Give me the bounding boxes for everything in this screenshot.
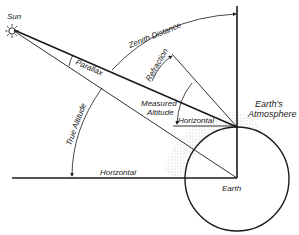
refraction-parallax-diagram: Sun Zenith Distance Parallax Refraction … bbox=[0, 0, 299, 235]
sun-to-observer-line bbox=[14, 30, 237, 127]
label-sun: Sun bbox=[7, 12, 22, 21]
parallax-arc bbox=[69, 55, 73, 66]
diagram-canvas: Sun Zenith Distance Parallax Refraction … bbox=[0, 0, 299, 235]
label-earths-atmosphere-1: Earth's bbox=[255, 99, 283, 109]
label-earth: Earth bbox=[222, 184, 242, 193]
label-measured-altitude-1: Measured bbox=[141, 99, 177, 108]
label-true-altitude: True Altitude bbox=[64, 101, 88, 146]
sun-icon bbox=[5, 24, 19, 38]
label-measured-altitude-2: Altitude bbox=[146, 108, 174, 117]
label-earths-atmosphere-2: Atmosphere bbox=[247, 109, 297, 119]
label-parallax: Parallax bbox=[74, 58, 105, 78]
label-horizontal-center: Horizontal bbox=[100, 168, 136, 177]
label-horizontal-observer: Horizontal bbox=[178, 116, 214, 125]
label-zenith-distance: Zenith Distance bbox=[126, 20, 182, 50]
label-refraction: Refraction bbox=[144, 46, 170, 83]
sun-to-center-line bbox=[14, 31, 237, 178]
